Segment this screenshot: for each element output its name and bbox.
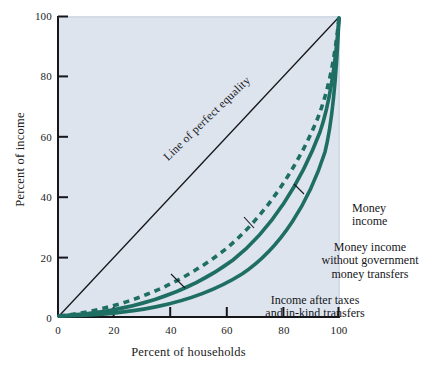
- x-tick-label-20: 20: [99, 324, 129, 336]
- annotation-no-transfers-line2: without government: [309, 254, 424, 267]
- x-tick-label-0: 0: [43, 324, 73, 336]
- annotation-money-income: Money income: [352, 202, 387, 229]
- x-tick-label-100: 100: [324, 324, 354, 336]
- annotation-after-taxes-line2: and in-kind transfers: [235, 307, 395, 320]
- x-tick-label-40: 40: [156, 324, 186, 336]
- y-tick-label-0: 0: [18, 312, 52, 324]
- x-axis-title: Percent of households: [0, 345, 377, 360]
- y-axis-title: Percent of income: [13, 80, 28, 240]
- annotation-money-income-without-transfers: Money income without government money tr…: [309, 241, 424, 281]
- annotation-income-after-taxes: Income after taxes and in-kind transfers: [235, 294, 395, 321]
- x-tick-label-60: 60: [212, 324, 242, 336]
- annotation-no-transfers-line3: money transfers: [309, 268, 424, 281]
- x-tick-label-80: 80: [269, 324, 299, 336]
- annotation-money-income-line1: Money: [352, 202, 387, 215]
- y-tick-label-100: 100: [18, 10, 52, 22]
- annotation-no-transfers-line1: Money income: [309, 241, 424, 254]
- y-tick-marks: [58, 17, 68, 258]
- y-tick-label-20: 20: [18, 252, 52, 264]
- annotation-money-income-line2: income: [352, 215, 387, 228]
- line-of-perfect-equality: [59, 17, 339, 316]
- leader-line-after-taxes: [171, 274, 185, 288]
- chart-canvas: [57, 16, 340, 318]
- plot-area: Line of perfect equality Money income Mo…: [57, 16, 340, 318]
- annotation-after-taxes-line1: Income after taxes: [235, 294, 395, 307]
- leader-line-money-income: [294, 184, 304, 194]
